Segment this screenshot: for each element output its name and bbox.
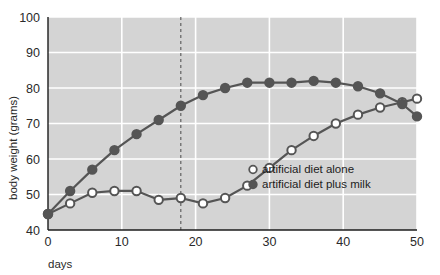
legend-marker-open-circle-icon xyxy=(249,166,257,174)
x-tick-label: 40 xyxy=(336,235,350,249)
y-axis-title: body weight (grams) xyxy=(7,96,19,200)
legend-marker-filled-circle-icon xyxy=(249,181,257,189)
legend-label: artificial diet plus milk xyxy=(262,178,371,190)
y-tick-label: 90 xyxy=(26,46,40,60)
y-tick-label: 60 xyxy=(26,153,40,167)
y-tick-label: 50 xyxy=(26,188,40,202)
y-axis-tick-labels: 405060708090100 xyxy=(19,11,40,238)
legend-label: artificial diet alone xyxy=(262,163,354,175)
x-tick-label: 10 xyxy=(115,235,129,249)
x-tick-label: 50 xyxy=(410,235,424,249)
y-tick-label: 80 xyxy=(26,82,40,96)
x-tick-label: 30 xyxy=(262,235,276,249)
x-axis-tick-labels: 01020304050 xyxy=(45,235,424,249)
y-tick-label: 100 xyxy=(19,11,40,25)
x-axis-title: days xyxy=(48,258,73,270)
chart-figure: 405060708090100 01020304050 artificial d… xyxy=(0,0,440,275)
y-tick-label: 70 xyxy=(26,117,40,131)
x-tick-label: 20 xyxy=(189,235,203,249)
x-tick-label: 0 xyxy=(45,235,52,249)
line-chart-svg: 405060708090100 01020304050 artificial d… xyxy=(0,0,440,275)
y-tick-label: 40 xyxy=(26,224,40,238)
